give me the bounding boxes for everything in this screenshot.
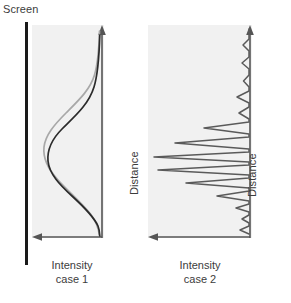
screen-line <box>25 22 28 265</box>
panel-case-1: Distance <box>32 25 104 238</box>
curve-dark-case-1 <box>48 35 100 236</box>
axis-label-distance-case-1: Distance <box>128 151 140 195</box>
curves-case-2 <box>148 25 252 238</box>
caption-case-1: Intensity case 1 <box>32 258 112 286</box>
caption-case-1-line1: Intensity <box>52 259 93 271</box>
panel-case-2: Distance <box>148 25 252 238</box>
interference-diagram: Screen Distance Intensity case 1 <box>0 0 291 303</box>
caption-case-2-line1: Intensity <box>180 259 221 271</box>
axis-label-distance-case-2: Distance <box>246 153 258 197</box>
caption-case-2-line2: case 2 <box>160 272 240 286</box>
curve-light-case-1 <box>44 31 100 235</box>
curve-interference-case-2 <box>154 29 249 234</box>
caption-case-1-line2: case 1 <box>32 272 112 286</box>
caption-case-2: Intensity case 2 <box>160 258 240 286</box>
curves-case-1 <box>32 25 104 238</box>
screen-label: Screen <box>3 3 38 15</box>
